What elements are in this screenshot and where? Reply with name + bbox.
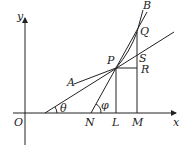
label-S: S <box>139 52 147 65</box>
label-phi: φ <box>101 99 109 112</box>
label-x: x <box>173 116 180 129</box>
label-N: N <box>84 116 95 129</box>
tangent-line-theta <box>45 32 174 113</box>
label-B: B <box>142 0 151 12</box>
label-y: y <box>16 10 24 23</box>
label-Q: Q <box>140 25 149 38</box>
label-M: M <box>131 116 144 129</box>
diagram-canvas: y x O A B P Q R S N L M θ φ <box>0 0 190 158</box>
label-A: A <box>66 76 75 89</box>
label-theta: θ <box>60 102 67 115</box>
label-L: L <box>111 116 119 129</box>
label-O: O <box>14 116 23 129</box>
label-P: P <box>106 54 115 67</box>
theta-arc <box>55 107 57 113</box>
